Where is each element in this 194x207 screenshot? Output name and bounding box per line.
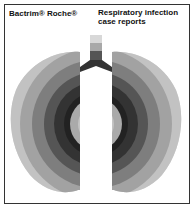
lungs-illustration-icon <box>0 0 194 207</box>
